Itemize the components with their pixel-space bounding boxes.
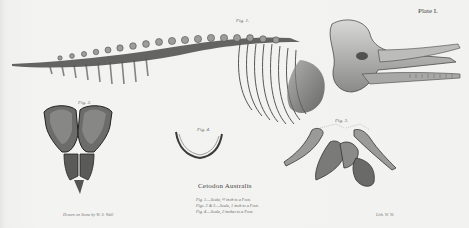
- lithograph-plate: Plate I. Fig. 1. Fig. 2. Fig. 4. Fig. 3.…: [0, 0, 469, 228]
- fig2-bone-pair: [44, 106, 112, 194]
- scale-note: Fig. 1.—Scale, ½ inch to a Foot.: [196, 197, 251, 202]
- fig4-label: Fig. 4.: [197, 127, 210, 132]
- fig2-label: Fig. 2.: [78, 100, 91, 105]
- lithographer-credit: Lith. W. W.: [376, 212, 394, 217]
- fig3-flipper-bones: [284, 124, 396, 186]
- fig1-label: Fig. 1.: [236, 18, 249, 23]
- scale-note: Fig. 4.—Scale, 2 inches to a Foot.: [196, 209, 253, 214]
- skeleton-illustration: [0, 0, 469, 228]
- species-title: Cetodon Australis: [198, 182, 252, 190]
- fig4-jaw-bone: [176, 132, 222, 158]
- plate-number: Plate I.: [418, 7, 438, 15]
- scale-note: Figs. 2 & 3.—Scale, 1 inch to a Foot.: [196, 203, 259, 208]
- fig3-label: Fig. 3.: [335, 118, 348, 123]
- artist-credit: Drawn on Stone by W. S. Wall: [63, 212, 113, 217]
- fig1-whale-skeleton: [12, 20, 460, 124]
